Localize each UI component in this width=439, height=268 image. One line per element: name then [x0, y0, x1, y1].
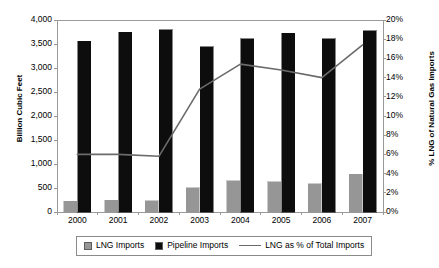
chart-container: Billion Cubic Feet % LNG of Natural Gas …	[0, 0, 439, 268]
legend-line-swatch-icon	[239, 245, 261, 246]
legend-item[interactable]: Pipeline Imports	[155, 241, 228, 250]
tick-marks	[54, 20, 386, 215]
legend-item[interactable]: LNG Imports	[84, 241, 144, 250]
legend-item-label: LNG as % of Total Imports	[265, 241, 364, 250]
chart-legend: LNG ImportsPipeline ImportsLNG as % of T…	[76, 236, 372, 256]
legend-square-swatch-icon	[155, 242, 163, 250]
legend-item-label: Pipeline Imports	[167, 241, 228, 250]
plot-area	[0, 0, 439, 268]
legend-item[interactable]: LNG as % of Total Imports	[239, 241, 364, 250]
legend-item-label: LNG Imports	[96, 241, 144, 250]
bars-layer	[64, 30, 376, 212]
legend-square-swatch-icon	[84, 242, 92, 250]
